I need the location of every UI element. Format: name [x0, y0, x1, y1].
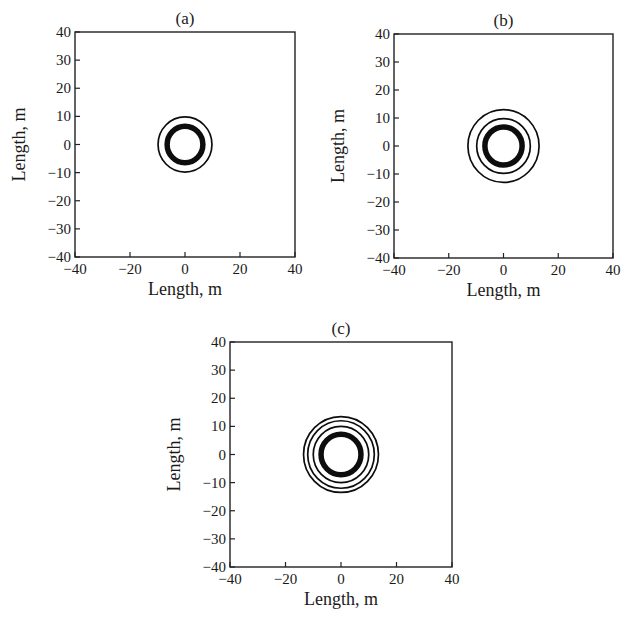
y-tick-label-c: 30	[211, 362, 226, 378]
y-axis-label-a: Length, m	[9, 108, 29, 182]
panel-title-a: (a)	[176, 9, 195, 28]
y-tick-label-c: 10	[211, 418, 226, 434]
x-tick-label-b: −20	[437, 262, 460, 278]
y-tick-label-a: −20	[48, 193, 71, 209]
y-tick-label-c: 20	[211, 390, 226, 406]
y-tick-label-a: −40	[48, 249, 71, 265]
panel-c: (c)−40−2002040−40−30−20−10010203040Lengt…	[164, 319, 460, 609]
y-axis-label-c: Length, m	[164, 418, 184, 492]
y-tick-label-a: 0	[64, 137, 72, 153]
y-tick-label-b: 40	[375, 26, 390, 42]
y-tick-label-a: 40	[56, 24, 71, 40]
y-tick-label-c: −30	[203, 531, 226, 547]
x-tick-label-b: 0	[500, 262, 508, 278]
x-tick-label-c: −20	[274, 571, 297, 587]
panel-title-b: (b)	[494, 11, 514, 30]
y-tick-label-b: −40	[367, 250, 390, 266]
x-tick-label-b: 40	[606, 262, 621, 278]
plot-frame-a	[75, 32, 295, 257]
x-tick-label-c: 20	[389, 571, 404, 587]
y-tick-label-c: −40	[203, 559, 226, 575]
y-tick-label-a: −30	[48, 221, 71, 237]
y-tick-label-a: 30	[56, 52, 71, 68]
x-tick-label-c: 0	[337, 571, 345, 587]
y-tick-label-c: −20	[203, 503, 226, 519]
y-tick-label-b: 30	[375, 54, 390, 70]
y-tick-label-b: −30	[367, 222, 390, 238]
y-tick-label-b: 20	[375, 82, 390, 98]
panel-a: (a)−40−2002040−40−30−20−10010203040Lengt…	[9, 9, 303, 299]
x-axis-label-b: Length, m	[467, 280, 541, 300]
x-tick-label-a: 0	[181, 261, 189, 277]
y-tick-label-a: 20	[56, 80, 71, 96]
y-tick-label-c: −10	[203, 475, 226, 491]
plot-frame-b	[394, 34, 613, 258]
panel-b: (b)−40−2002040−40−30−20−10010203040Lengt…	[328, 11, 621, 300]
y-tick-label-b: −10	[367, 166, 390, 182]
plot-frame-c	[230, 342, 452, 567]
y-tick-label-a: −10	[48, 165, 71, 181]
x-tick-label-a: −20	[118, 261, 141, 277]
y-axis-label-b: Length, m	[328, 109, 348, 183]
x-axis-label-c: Length, m	[304, 589, 378, 609]
y-tick-label-c: 0	[219, 447, 227, 463]
panel-title-c: (c)	[332, 319, 351, 338]
y-tick-label-b: −20	[367, 194, 390, 210]
y-tick-label-b: 10	[375, 110, 390, 126]
x-tick-label-a: 20	[233, 261, 248, 277]
y-tick-label-b: 0	[383, 138, 391, 154]
x-tick-label-c: 40	[445, 571, 460, 587]
x-tick-label-a: 40	[288, 261, 303, 277]
y-tick-label-a: 10	[56, 108, 71, 124]
figure: (a)−40−2002040−40−30−20−10010203040Lengt…	[0, 0, 625, 631]
x-axis-label-a: Length, m	[148, 279, 222, 299]
y-tick-label-c: 40	[211, 334, 226, 350]
x-tick-label-b: 20	[551, 262, 566, 278]
